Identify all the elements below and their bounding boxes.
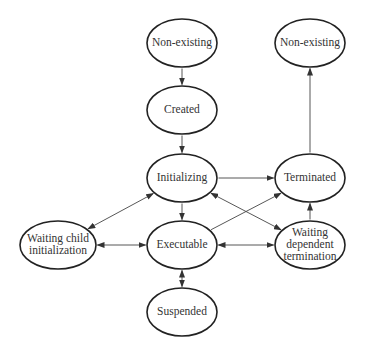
state-node-initializing: Initializing bbox=[147, 154, 217, 202]
state-label: Terminated bbox=[284, 171, 336, 183]
state-label: Non-existing bbox=[280, 36, 340, 49]
state-node-suspended: Suspended bbox=[147, 288, 217, 336]
state-label: initialization bbox=[29, 244, 87, 256]
state-label: Executable bbox=[156, 238, 207, 250]
state-diagram: Non-existingCreatedInitializingExecutabl… bbox=[0, 0, 369, 354]
state-node-nonexisting-start: Non-existing bbox=[147, 19, 217, 67]
state-label: termination bbox=[283, 250, 336, 262]
state-node-terminated: Terminated bbox=[275, 154, 345, 202]
state-node-waiting-child: Waiting childinitialization bbox=[20, 221, 96, 269]
state-label: Suspended bbox=[157, 305, 207, 318]
state-label: Initializing bbox=[157, 171, 208, 184]
state-label: Created bbox=[164, 103, 200, 115]
state-node-waiting-dependent: Waitingdependenttermination bbox=[275, 221, 345, 269]
nodes: Non-existingCreatedInitializingExecutabl… bbox=[20, 19, 345, 336]
state-node-created: Created bbox=[147, 86, 217, 134]
edge-initializing-to-waiting_child bbox=[88, 194, 153, 229]
state-node-nonexisting-end: Non-existing bbox=[275, 19, 345, 67]
state-label: Non-existing bbox=[152, 36, 212, 49]
state-node-executable: Executable bbox=[147, 221, 217, 269]
